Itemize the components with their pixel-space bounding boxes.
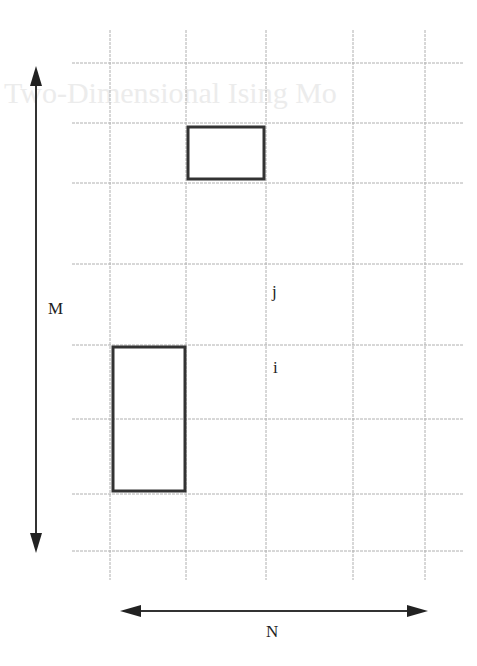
label-i: i [273,358,278,378]
arrow-down-icon [30,533,42,553]
lattice-diagram [0,0,477,666]
top-block [188,127,264,179]
arrow-up-icon [30,66,42,86]
m-dimension-arrow [30,66,42,553]
highlighted-cells [113,127,264,491]
arrow-left-icon [120,605,141,617]
n-dimension-arrow [120,605,428,617]
label-m: M [48,299,63,319]
label-j: j [272,282,277,302]
label-n: N [266,622,278,642]
arrow-right-icon [407,605,428,617]
lattice-grid [72,30,463,580]
